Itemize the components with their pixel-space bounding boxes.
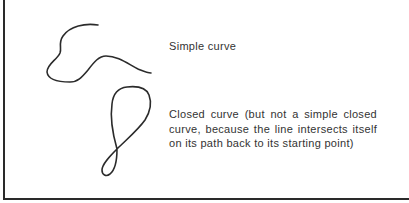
simple-curve-label: Simple curve	[169, 40, 236, 52]
simple-curve	[47, 24, 151, 82]
closed-curve	[102, 87, 150, 176]
curves-illustration	[0, 0, 409, 203]
closed-curve-label: Closed curve (but not a simple closed cu…	[169, 107, 377, 151]
